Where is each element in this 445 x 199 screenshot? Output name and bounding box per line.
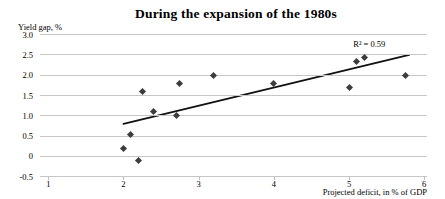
gridline bbox=[40, 115, 427, 116]
x-tick-mark bbox=[424, 177, 425, 180]
x-tick-label: 2 bbox=[112, 179, 134, 189]
x-tick-label: 1 bbox=[37, 179, 59, 189]
chart: During the expansion of the 1980s Yield … bbox=[0, 0, 445, 199]
y-tick-label: 3.0 bbox=[2, 30, 33, 40]
trend-line-layer bbox=[0, 0, 445, 199]
trend-line bbox=[123, 55, 409, 124]
gridline bbox=[40, 54, 427, 55]
x-tick-mark bbox=[123, 177, 124, 180]
gridline bbox=[40, 156, 427, 157]
gridline bbox=[40, 136, 427, 137]
x-tick-label: 4 bbox=[263, 179, 285, 189]
x-tick-mark bbox=[48, 177, 49, 180]
y-tick-label: -0.5 bbox=[2, 172, 33, 182]
x-tick-label: 3 bbox=[188, 179, 210, 189]
gridline bbox=[40, 75, 427, 76]
y-tick-label: 2.5 bbox=[2, 50, 33, 60]
gridline bbox=[40, 34, 427, 35]
x-axis-label: Projected deficit, in % of GDP bbox=[323, 187, 427, 197]
x-tick-mark bbox=[349, 177, 350, 180]
y-tick-label: 0.5 bbox=[2, 131, 33, 141]
r-squared-annotation: R² = 0.59 bbox=[334, 39, 404, 49]
x-tick-mark bbox=[199, 177, 200, 180]
y-tick-label: 1.5 bbox=[2, 91, 33, 101]
y-tick-label: 0 bbox=[2, 151, 33, 161]
plot-area: 3.02.52.01.51.00.50-0.5123456 bbox=[0, 0, 445, 199]
y-tick-label: 2.0 bbox=[2, 70, 33, 80]
gridline bbox=[40, 176, 427, 177]
gridline bbox=[40, 95, 427, 96]
x-tick-mark bbox=[274, 177, 275, 180]
y-tick-label: 1.0 bbox=[2, 111, 33, 121]
